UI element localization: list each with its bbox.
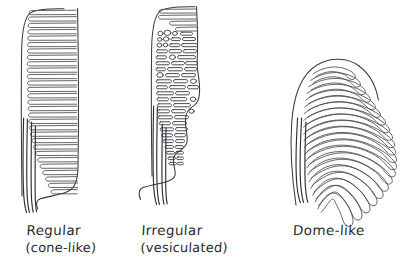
- panel-dome-drawing: [291, 59, 397, 226]
- caption-regular: Regular (cone-like): [25, 221, 98, 257]
- caption-regular-line2: (cone-like): [25, 239, 97, 257]
- caption-irregular: Irregular (vesiculated): [140, 221, 229, 257]
- figure-root: Regular (cone-like) Irregular (vesiculat…: [0, 0, 403, 274]
- panel-irregular-drawing: [139, 7, 200, 205]
- caption-irregular-line2: (vesiculated): [140, 239, 228, 257]
- caption-irregular-line1: Irregular: [141, 222, 203, 238]
- panel-dome-lamellae: [304, 67, 397, 226]
- panel-irregular-stalk: [153, 106, 167, 205]
- caption-dome: Dome-like: [293, 221, 366, 239]
- panel-regular-drawing: [21, 9, 78, 213]
- caption-regular-line1: Regular: [26, 222, 81, 238]
- panel-irregular-top-lamellae: [158, 9, 196, 31]
- caption-dome-line1: Dome-like: [293, 222, 366, 238]
